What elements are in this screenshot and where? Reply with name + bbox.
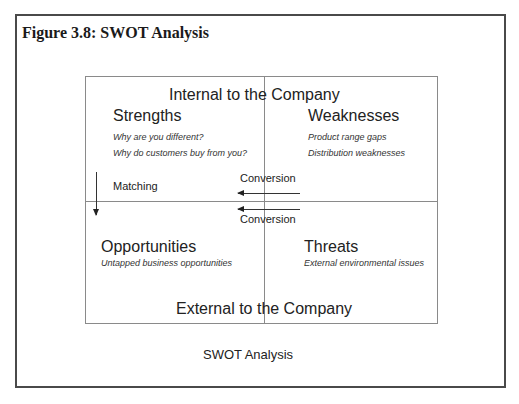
weaknesses-item: Product range gaps [308, 132, 387, 142]
weaknesses-title: Weaknesses [308, 107, 399, 125]
figure-title: Figure 3.8: SWOT Analysis [22, 24, 209, 42]
opportunities-item: Untapped business opportunities [101, 258, 232, 268]
conversion-top-label: Conversion [240, 172, 296, 184]
internal-header: Internal to the Company [169, 86, 340, 104]
conversion-bottom-label: Conversion [240, 213, 296, 225]
matching-label: Matching [113, 180, 158, 192]
external-header: External to the Company [176, 300, 352, 318]
strengths-item: Why do customers buy from you? [113, 148, 247, 158]
opportunities-title: Opportunities [101, 238, 196, 256]
figure-caption: SWOT Analysis [203, 347, 293, 362]
conversion-bottom-arrow-icon [238, 209, 300, 210]
vertical-divider [264, 76, 265, 324]
horizontal-divider [85, 201, 438, 202]
strengths-title: Strengths [113, 107, 181, 125]
threats-title: Threats [304, 238, 358, 256]
weaknesses-item: Distribution weaknesses [308, 148, 405, 158]
matching-arrow-icon [96, 172, 97, 215]
strengths-item: Why are you different? [113, 132, 204, 142]
threats-item: External environmental issues [304, 258, 424, 268]
conversion-top-arrow-icon [238, 193, 300, 194]
